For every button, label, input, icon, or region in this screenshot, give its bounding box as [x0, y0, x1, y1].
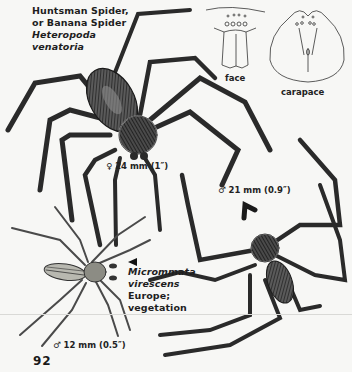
face-caption: face	[225, 73, 245, 83]
female-size-label: ♀ 24 mm (1″)	[106, 161, 168, 171]
field-guide-page: Huntsman Spider, or Banana Spider Hetero…	[0, 0, 352, 372]
page-fold-line	[0, 314, 352, 315]
micrommata-habitat: vegetation	[128, 302, 196, 314]
common-name-line1: Huntsman Spider,	[32, 5, 129, 17]
scientific-name-species: venatoria	[32, 41, 129, 53]
carapace-caption: carapace	[281, 87, 324, 97]
micrommata-range: Europe;	[128, 290, 196, 302]
huntsman-label-block: Huntsman Spider, or Banana Spider Hetero…	[32, 5, 129, 53]
pointer-arrow-icon	[128, 258, 137, 266]
scientific-name-genus: Heteropoda	[32, 29, 129, 41]
male-size-label: ♂ 21 mm (0.9″)	[218, 185, 291, 195]
spider-illustrations	[0, 0, 352, 372]
face-detail-drawing	[206, 7, 265, 68]
micrommata-size-label: ♂ 12 mm (0.5″)	[53, 340, 126, 350]
micrommata-label-block: Micrommata virescens Europe; vegetation	[128, 266, 196, 314]
male-huntsman-spider-drawing	[150, 140, 345, 355]
micrommata-genus: Micrommata	[128, 266, 196, 278]
common-name-line2: or Banana Spider	[32, 17, 129, 29]
carapace-detail-drawing	[270, 11, 344, 82]
page-number: 92	[33, 354, 52, 368]
micrommata-species: virescens	[128, 278, 196, 290]
